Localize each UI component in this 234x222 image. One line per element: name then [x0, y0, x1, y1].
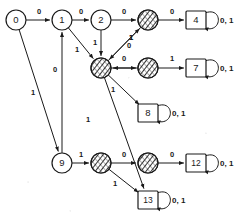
edge-label-h5-n8: 1 [111, 85, 115, 94]
state-node-9[interactable]: 9 [52, 153, 72, 173]
edge-label-h5-n13: 1 [86, 115, 90, 124]
self-loop-n8: 0, 1 [156, 105, 186, 122]
automaton-diagram: 0, 10, 10, 10, 10, 1 01247891213 0101010… [0, 0, 234, 222]
state-node-0[interactable]: 0 [6, 10, 26, 30]
self-loop-label-n12: 0, 1 [220, 159, 234, 168]
state-node-7[interactable]: 7 [186, 59, 206, 77]
state-label: 9 [59, 157, 64, 168]
edge-label-n1-n2: 0 [79, 7, 83, 16]
edge-label-n9-h10: 1 [79, 150, 83, 159]
edge-label-n0-n9: 1 [31, 88, 35, 97]
hatch-fill-cross-icon [139, 154, 158, 173]
state-label: 4 [193, 14, 198, 25]
edge-label-n1-h5: 1 [75, 45, 79, 54]
edge-label-h11-n12: 0 [170, 150, 174, 159]
edge-label-n9-n1: 0 [53, 65, 57, 74]
hatch-fill-cross-icon [139, 11, 158, 30]
state-node-8[interactable]: 8 [138, 104, 158, 122]
hatch-fill-cross-icon [139, 59, 158, 78]
state-label: 8 [145, 107, 150, 118]
state-node-13[interactable]: 13 [138, 191, 158, 209]
edge-label-n2-h5: 1 [93, 38, 97, 47]
state-node-2[interactable]: 2 [91, 10, 111, 30]
self-loop-label-n8: 0, 1 [172, 109, 186, 118]
self-loop-n7: 0, 1 [204, 60, 234, 77]
hatch-fill-cross-icon [92, 154, 111, 173]
state-node-4[interactable]: 4 [186, 11, 206, 29]
state-label: 7 [193, 62, 198, 73]
edge-label-h10-h11: 0 [122, 150, 126, 159]
state-node-12[interactable]: 12 [186, 154, 206, 172]
edge-label-h6-h5: 0 [127, 41, 131, 50]
edge-label-h5-h6: 0 [122, 54, 126, 63]
edge-label-h10-n13: 1 [113, 179, 117, 188]
self-loop-label-n4: 0, 1 [220, 16, 234, 25]
state-label: 13 [143, 195, 153, 205]
state-label: 12 [191, 158, 201, 168]
state-node-h11[interactable] [138, 153, 158, 173]
state-node-h5[interactable] [91, 58, 111, 78]
self-loop-layer: 0, 10, 10, 10, 10, 1 [156, 12, 234, 209]
state-label: 0 [13, 14, 18, 25]
edge-label-n0-n1: 0 [37, 7, 41, 16]
self-loop-label-n13: 0, 1 [172, 196, 186, 205]
edge-label-h3-n4: 0 [170, 7, 174, 16]
self-loop-n12: 0, 1 [204, 155, 234, 172]
self-loop-n13: 0, 1 [156, 192, 186, 209]
edge-n0-to-n9 [19, 30, 58, 151]
state-node-h6[interactable] [138, 58, 158, 78]
self-loop-n4: 0, 1 [204, 12, 234, 29]
state-node-h10[interactable] [91, 153, 111, 173]
edge-label-n2-h3: 0 [122, 7, 126, 16]
edge-label-h6-n7: 1 [170, 54, 174, 63]
state-node-h3[interactable] [138, 10, 158, 30]
self-loop-label-n7: 0, 1 [220, 64, 234, 73]
hatch-fill-cross-icon [92, 59, 111, 78]
edge-n1-to-h5 [69, 28, 93, 58]
state-node-1[interactable]: 1 [52, 10, 72, 30]
automaton-graph-canvas: 0, 10, 10, 10, 10, 1 01247891213 0101010… [0, 0, 234, 222]
edge-h5-to-n13 [105, 78, 144, 188]
state-label: 2 [98, 14, 103, 25]
state-label: 1 [59, 14, 64, 25]
